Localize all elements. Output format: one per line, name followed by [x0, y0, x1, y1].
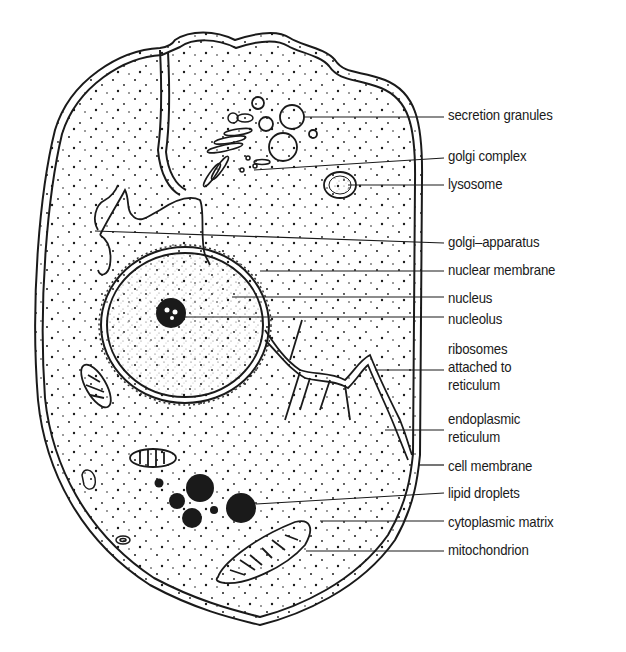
- cell-illustration: [0, 0, 626, 652]
- label-lysosome: lysosome: [448, 175, 502, 193]
- label-nucleus: nucleus: [448, 289, 492, 307]
- nucleolus-shape: [156, 298, 186, 328]
- label-cell-membrane: cell membrane: [448, 457, 532, 475]
- label-secretion-granules: secretion granules: [448, 106, 553, 124]
- label-golgi-complex: golgi complex: [448, 147, 526, 165]
- label-endoplasmic-reticulum: endoplasmic reticulum: [448, 410, 520, 446]
- label-mitochondrion: mitochondrion: [448, 541, 529, 559]
- label-nucleolus: nucleolus: [448, 310, 502, 328]
- label-golgi-apparatus: golgi–apparatus: [448, 233, 539, 251]
- label-cytoplasmic-matrix: cytoplasmic matrix: [448, 513, 553, 531]
- label-lipid-droplets: lipid droplets: [448, 484, 520, 502]
- label-nuclear-membrane: nuclear membrane: [448, 261, 555, 279]
- label-ribosomes: ribosomes attached to reticulum: [448, 340, 511, 394]
- cell-diagram: secretion granules golgi complex lysosom…: [0, 0, 626, 652]
